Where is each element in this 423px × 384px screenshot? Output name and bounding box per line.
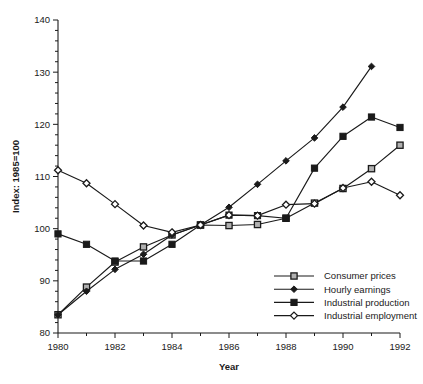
data-point	[226, 222, 232, 228]
data-point	[397, 142, 403, 148]
data-point	[83, 241, 89, 247]
data-point	[254, 221, 260, 227]
legend-item-industrial-employment[interactable]: Industrial employment	[274, 310, 417, 321]
data-point	[283, 201, 290, 208]
legend-marker-icon	[291, 286, 298, 293]
legend-label: Hourly earnings	[324, 284, 391, 295]
data-point	[169, 241, 175, 247]
x-axis: 1980198219841986198819901992 Year	[47, 333, 410, 372]
y-tick-label: 130	[34, 67, 50, 78]
x-tick-label: 1988	[275, 341, 296, 352]
y-tick-label: 140	[34, 14, 50, 25]
legend-label: Consumer prices	[324, 270, 396, 281]
data-point	[283, 215, 289, 221]
y-tick-label-group: 8090100110120130140	[34, 14, 50, 338]
data-point	[140, 251, 147, 258]
y-tick-label: 120	[34, 119, 50, 130]
data-point	[55, 231, 61, 237]
legend-label: Industrial production	[324, 297, 410, 308]
x-tick-label: 1982	[104, 341, 125, 352]
legend-marker-icon	[291, 299, 297, 305]
data-point	[368, 178, 375, 185]
chart-container: 8090100110120130140 Index: 1985=100 1980…	[0, 0, 423, 384]
y-axis: 8090100110120130140 Index: 1985=100	[10, 14, 58, 338]
legend-item-hourly-earnings[interactable]: Hourly earnings	[274, 284, 391, 295]
y-tick-group	[53, 20, 58, 333]
legend-item-industrial-production[interactable]: Industrial production	[274, 297, 410, 308]
data-point	[140, 244, 146, 250]
chart-legend: Consumer pricesHourly earningsIndustrial…	[274, 270, 417, 321]
x-tick-label: 1980	[47, 341, 68, 352]
series-path	[58, 117, 400, 261]
y-tick-label: 90	[39, 275, 50, 286]
x-axis-title: Year	[219, 361, 239, 372]
x-tick-label: 1992	[389, 341, 410, 352]
x-tick-label: 1986	[218, 341, 239, 352]
legend-marker-icon	[291, 273, 297, 279]
x-tick-label: 1990	[332, 341, 353, 352]
data-point	[368, 114, 374, 120]
data-point	[55, 167, 62, 174]
y-tick-label: 110	[35, 171, 50, 182]
y-axis-title: Index: 1985=100	[10, 140, 21, 213]
data-point	[311, 165, 317, 171]
y-tick-label: 80	[39, 327, 50, 338]
x-tick-label: 1984	[161, 341, 182, 352]
legend-marker-icon	[291, 312, 298, 319]
x-tick-label-group: 1980198219841986198819901992	[47, 341, 410, 352]
legend-item-consumer-prices[interactable]: Consumer prices	[274, 270, 396, 281]
x-tick-group	[58, 333, 400, 338]
data-point	[340, 133, 346, 139]
series-industrial-production	[55, 114, 403, 264]
y-tick-label: 100	[34, 223, 50, 234]
line-chart: 8090100110120130140 Index: 1985=100 1980…	[0, 0, 423, 384]
legend-label: Industrial employment	[324, 310, 417, 321]
data-point	[112, 258, 118, 264]
data-point	[397, 192, 404, 199]
data-point	[140, 258, 146, 264]
data-point	[368, 166, 374, 172]
data-point	[397, 124, 403, 130]
